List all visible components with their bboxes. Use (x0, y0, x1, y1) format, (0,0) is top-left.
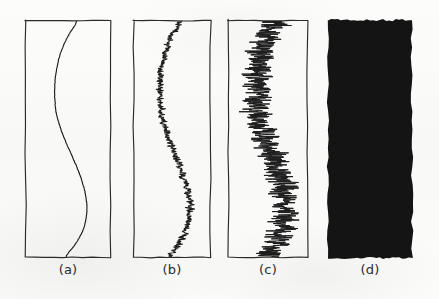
panel-frame (25, 20, 111, 258)
panel-c (228, 20, 308, 258)
panel-a-label: (a) (25, 262, 111, 277)
signal-curve (156, 22, 194, 257)
panel-d-label: (d) (328, 262, 412, 277)
panel-frame (133, 20, 211, 258)
panel-d (328, 20, 412, 258)
panel-b-canvas (133, 20, 211, 258)
panel-d-canvas (328, 20, 412, 258)
panel-a (25, 20, 111, 258)
saturated-noise-fill (327, 19, 413, 259)
panel-c-canvas (228, 20, 308, 258)
signal-curve (54, 22, 87, 257)
panel-b-label: (b) (133, 262, 211, 277)
panel-b (133, 20, 211, 258)
panel-a-canvas (25, 20, 111, 258)
panel-c-label: (c) (228, 262, 308, 277)
figure-root: (a) (b) (c) (d) (0, 0, 439, 299)
signal-curve (239, 22, 299, 257)
